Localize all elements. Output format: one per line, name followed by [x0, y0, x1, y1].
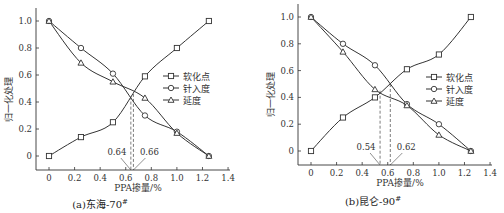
- circle-marker-icon: [110, 71, 115, 76]
- legend-label: 针入度: [446, 84, 473, 95]
- square-marker-icon: [46, 153, 51, 158]
- x-tick-label: 0.2: [68, 173, 82, 183]
- y-tick-label: 0.4: [18, 97, 32, 107]
- x-tick-label: 0.4: [355, 168, 369, 178]
- y-axis-title: 归一化处理: [3, 77, 14, 122]
- square-marker-icon: [142, 74, 147, 79]
- square-marker-icon: [78, 135, 83, 140]
- circle-marker-icon: [78, 45, 83, 50]
- square-marker-icon: [436, 52, 441, 57]
- x-tick-label: 0.6: [381, 168, 395, 178]
- annotation-label: 0.62: [397, 142, 416, 152]
- y-tick-label: 0.2: [18, 124, 32, 134]
- x-tick-label: 1.0: [170, 173, 184, 183]
- x-tick-label: 0.2: [330, 168, 344, 178]
- chart-caption: (b)昆仑-90#: [345, 195, 401, 207]
- triangle-marker-icon: [110, 79, 116, 84]
- circle-marker-icon: [142, 113, 147, 118]
- legend-circle-icon: [168, 85, 173, 90]
- legend-square-icon: [168, 73, 173, 78]
- x-tick-label: 0: [46, 173, 51, 183]
- annotation-leader: [370, 153, 380, 165]
- legend-label: 软化点: [446, 72, 473, 83]
- y-tick-label: 0.2: [280, 119, 294, 129]
- figure: 00.20.40.60.81.000.20.40.60.81.01.21.40.…: [0, 0, 504, 213]
- square-marker-icon: [340, 115, 345, 120]
- chart-panel-a: 00.20.40.60.81.000.20.40.60.81.01.21.40.…: [3, 8, 235, 210]
- square-marker-icon: [308, 148, 313, 153]
- caption-text: (a)东海-70: [72, 198, 122, 210]
- annotation-label: 0.66: [140, 147, 159, 157]
- circle-marker-icon: [372, 63, 377, 68]
- circle-marker-icon: [340, 41, 345, 46]
- caption-superscript: #: [395, 195, 401, 203]
- chart-panel-b: 00.20.40.60.81.000.20.40.60.81.01.21.40.…: [265, 4, 497, 207]
- x-axis-title: PPA掺量/%: [376, 177, 424, 188]
- y-tick-label: 1.0: [18, 16, 32, 26]
- square-marker-icon: [468, 14, 473, 19]
- y-tick-label: 0.4: [280, 92, 294, 102]
- x-tick-label: 1.0: [432, 168, 446, 178]
- triangle-marker-icon: [142, 95, 148, 100]
- legend-label: 延度: [446, 96, 464, 107]
- legend-label: 软化点: [183, 71, 210, 82]
- x-tick-label: 1.4: [483, 168, 497, 178]
- y-axis-title: 归一化处理: [265, 72, 276, 117]
- y-tick-label: 0: [289, 146, 294, 156]
- annotation-leader: [390, 153, 402, 165]
- x-axis-title: PPA掺量/%: [114, 182, 162, 193]
- circle-marker-icon: [436, 122, 441, 127]
- legend-circle-icon: [431, 86, 436, 91]
- y-tick-label: 0.6: [18, 70, 32, 80]
- x-tick-label: 0.8: [407, 168, 421, 178]
- x-tick-label: 1.2: [458, 168, 472, 178]
- x-tick-label: 1.4: [221, 173, 235, 183]
- square-marker-icon: [110, 120, 115, 125]
- x-tick-label: 0.8: [145, 173, 159, 183]
- annotation-label: 0.64: [107, 147, 126, 157]
- chart-caption: (a)东海-70#: [72, 198, 128, 210]
- y-tick-label: 0.6: [280, 66, 294, 76]
- annotation-label: 0.54: [357, 142, 376, 152]
- x-tick-label: 0: [308, 168, 313, 178]
- x-tick-label: 0.4: [93, 173, 107, 183]
- square-marker-icon: [372, 95, 377, 100]
- y-tick-label: 0.8: [280, 39, 294, 49]
- caption-text: (b)昆仑-90: [345, 195, 395, 207]
- annotation-leader: [133, 158, 145, 170]
- square-marker-icon: [206, 18, 211, 23]
- caption-superscript: #: [122, 198, 128, 206]
- y-tick-label: 0.8: [18, 43, 32, 53]
- legend-label: 延度: [183, 95, 201, 106]
- y-tick-label: 1.0: [280, 12, 294, 22]
- x-tick-label: 1.2: [196, 173, 210, 183]
- legend-square-icon: [431, 74, 436, 79]
- y-tick-label: 0: [27, 151, 32, 161]
- square-marker-icon: [174, 45, 179, 50]
- legend-label: 针入度: [183, 83, 210, 94]
- square-marker-icon: [404, 67, 409, 72]
- x-tick-label: 0.6: [119, 173, 133, 183]
